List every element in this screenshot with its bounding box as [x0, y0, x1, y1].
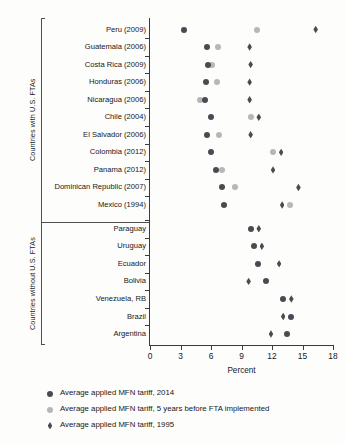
data-point-2014 — [213, 167, 219, 173]
x-axis-tick — [211, 346, 212, 350]
category-label: Chile (2004) — [105, 112, 146, 122]
data-point-pre-fta — [232, 184, 238, 190]
dot-plot-chart: Countries with U.S. FTAs Countries witho… — [0, 0, 346, 444]
data-point-2014 — [181, 27, 187, 33]
data-point-pre-fta — [254, 27, 260, 33]
legend-label: Average applied MFN tariff, 1995 — [60, 420, 174, 429]
group-label-without-ftas: Countries without U.S. FTAs — [28, 228, 37, 340]
category-axis-cap-bottom — [41, 344, 45, 345]
category-label: Uruguay — [117, 241, 146, 251]
category-label: Bolivia — [124, 276, 146, 286]
x-axis-tick-label: 9 — [232, 351, 252, 361]
x-axis-tick-label: 0 — [140, 351, 160, 361]
category-axis-spine — [41, 18, 42, 345]
category-label: Argentina — [113, 329, 146, 339]
legend-item: Average applied MFN tariff, 5 years befo… — [47, 403, 337, 419]
data-point-1995 — [247, 78, 252, 85]
y-axis-tick — [145, 308, 149, 309]
category-label: Ecuador — [118, 259, 146, 269]
y-axis-tick — [145, 144, 149, 145]
data-point-pre-fta — [216, 132, 222, 138]
data-point-pre-fta — [248, 114, 254, 120]
data-point-1995 — [247, 96, 252, 103]
data-point-2014 — [263, 278, 269, 284]
data-point-pre-fta — [287, 202, 293, 208]
legend-marker-diamond-icon — [48, 422, 53, 429]
legend-item: Average applied MFN tariff, 2014 — [47, 387, 337, 403]
x-axis-tick — [272, 346, 273, 350]
category-label: Honduras (2006) — [89, 77, 146, 87]
data-point-2014 — [288, 314, 294, 320]
y-axis-tick — [145, 196, 149, 197]
data-point-pre-fta — [214, 79, 220, 85]
category-label: Mexico (1994) — [98, 200, 146, 210]
x-axis-tick — [333, 346, 334, 350]
data-point-pre-fta — [270, 149, 276, 155]
data-point-2014 — [221, 202, 227, 208]
y-axis-tick — [145, 91, 149, 92]
category-label: Nicaragua (2006) — [87, 95, 146, 105]
data-point-1995 — [289, 295, 294, 302]
data-point-1995 — [260, 243, 265, 250]
x-axis-tick — [303, 346, 304, 350]
x-axis-title: Percent — [150, 366, 333, 375]
data-point-1995 — [256, 114, 261, 121]
data-point-1995 — [313, 26, 318, 33]
data-point-1995 — [281, 313, 286, 320]
category-label: Paraguay — [113, 224, 146, 234]
data-point-1995 — [246, 278, 251, 285]
data-point-2014 — [208, 149, 214, 155]
legend-label: Average applied MFN tariff, 2014 — [60, 388, 174, 397]
y-axis-tick — [145, 126, 149, 127]
y-axis-tick — [145, 273, 149, 274]
data-point-2014 — [202, 97, 208, 103]
category-axis-cap-top — [41, 18, 45, 19]
data-point-2014 — [219, 184, 225, 190]
y-axis-tick — [145, 108, 149, 109]
x-axis-tick-label: 15 — [293, 351, 313, 361]
data-point-2014 — [251, 243, 257, 249]
data-point-1995 — [248, 61, 253, 68]
data-point-pre-fta — [219, 167, 225, 173]
data-point-1995 — [277, 260, 282, 267]
data-point-2014 — [255, 261, 261, 267]
category-label: El Salvador (2006) — [83, 130, 146, 140]
data-point-2014 — [248, 226, 254, 232]
y-axis-tick — [145, 238, 149, 239]
data-point-2014 — [208, 114, 214, 120]
data-point-1995 — [247, 43, 252, 50]
y-axis-tick — [145, 179, 149, 180]
data-point-2014 — [204, 44, 210, 50]
x-axis-tick — [242, 346, 243, 350]
x-axis-tick-label: 18 — [323, 351, 343, 361]
y-axis-tick — [145, 255, 149, 256]
legend-item: Average applied MFN tariff, 1995 — [47, 419, 337, 435]
y-axis-tick — [145, 56, 149, 57]
x-axis-tick-label: 6 — [201, 351, 221, 361]
category-label: Brazil — [127, 312, 146, 322]
plot-area — [150, 18, 333, 345]
data-point-2014 — [205, 62, 211, 68]
category-label: Costa Rica (2009) — [85, 60, 146, 70]
data-point-1995 — [256, 225, 261, 232]
category-label: Panama (2012) — [94, 165, 146, 175]
legend-marker-circle-icon — [47, 407, 53, 413]
x-axis-tick — [181, 346, 182, 350]
data-point-2014 — [284, 331, 290, 337]
y-axis-tick — [145, 220, 149, 221]
legend-label: Average applied MFN tariff, 5 years befo… — [60, 404, 269, 413]
data-point-1995 — [269, 330, 274, 337]
data-point-1995 — [279, 149, 284, 156]
y-axis-tick — [145, 73, 149, 74]
data-point-1995 — [296, 184, 301, 191]
chart-legend: Average applied MFN tariff, 2014Average … — [47, 387, 337, 435]
group-label-with-ftas: Countries with U.S. FTAs — [28, 22, 37, 218]
y-axis-tick — [145, 325, 149, 326]
y-axis-tick — [145, 290, 149, 291]
category-label: Peru (2009) — [106, 25, 146, 35]
data-point-2014 — [203, 79, 209, 85]
category-label: Venezuela, RB — [96, 294, 146, 304]
data-point-pre-fta — [215, 44, 221, 50]
data-point-2014 — [280, 296, 286, 302]
x-axis-tick-label: 3 — [171, 351, 191, 361]
